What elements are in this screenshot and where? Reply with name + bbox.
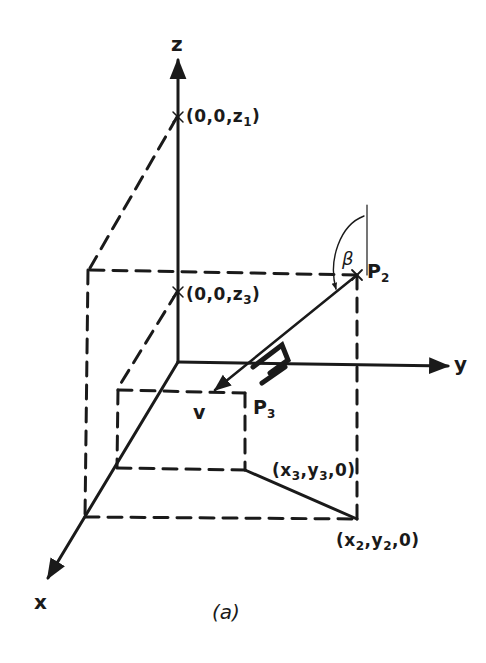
xy2-sep: , bbox=[365, 530, 372, 550]
point-z3-label: (0,0,z3) bbox=[186, 286, 260, 306]
xy2-x: x bbox=[344, 530, 355, 550]
diagram-canvas bbox=[0, 0, 486, 663]
point-xy2-label: (x2,y2,0) bbox=[336, 532, 420, 552]
z1-open: (0,0, bbox=[186, 106, 233, 126]
p2-name: P bbox=[367, 260, 381, 282]
point-p2-label: P2 bbox=[367, 262, 389, 284]
point-xy3-label: (x3,y3,0) bbox=[272, 462, 356, 482]
x-axis-label: x bbox=[34, 592, 47, 612]
xy2-y: y bbox=[372, 530, 384, 550]
z1-var: z bbox=[233, 106, 243, 126]
figure-caption: (a) bbox=[212, 602, 240, 622]
z1-sub: 1 bbox=[243, 115, 252, 129]
z3-open: (0,0, bbox=[186, 284, 233, 304]
x-axis bbox=[48, 362, 178, 578]
point-z1-label: (0,0,z1) bbox=[186, 108, 260, 128]
xy3-xsub: 3 bbox=[292, 469, 301, 483]
point-p3-label: P3 bbox=[253, 398, 275, 420]
xy3-close: ,0) bbox=[328, 460, 356, 480]
xy2-close: ,0) bbox=[392, 530, 420, 550]
z3-var: z bbox=[233, 284, 243, 304]
beta-label: β bbox=[342, 250, 354, 268]
xy3-x: x bbox=[280, 460, 291, 480]
y-axis bbox=[178, 362, 448, 366]
p3-name: P bbox=[253, 396, 267, 418]
xy3-ysub: 3 bbox=[319, 469, 328, 483]
z1-close: ) bbox=[252, 106, 260, 126]
velocity-label: v bbox=[193, 403, 205, 422]
z3-close: ) bbox=[252, 284, 260, 304]
xy3-y: y bbox=[308, 460, 320, 480]
z3-sub: 3 bbox=[243, 293, 252, 307]
xy2-ysub: 2 bbox=[383, 539, 392, 553]
z-axis-label: z bbox=[171, 34, 183, 54]
dashed-projection-lines bbox=[85, 117, 357, 519]
y-axis-label: y bbox=[454, 354, 467, 374]
p3-sub: 3 bbox=[267, 407, 275, 421]
p2-sub: 2 bbox=[381, 271, 389, 285]
xy2-xsub: 2 bbox=[356, 539, 365, 553]
xy3-sep: , bbox=[301, 460, 308, 480]
